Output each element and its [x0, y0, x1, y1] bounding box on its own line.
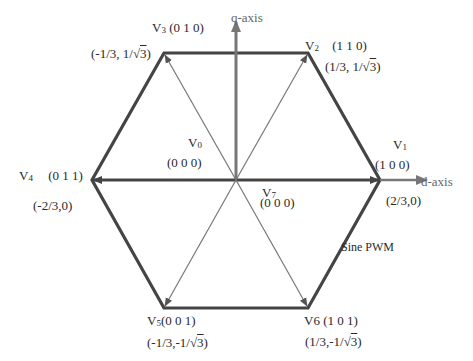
v1-label: V1	[393, 138, 407, 152]
vector-v2	[236, 55, 307, 180]
v1-state: (1 0 0)	[375, 158, 410, 171]
sine-pwm-annotation: Sine PWM	[341, 241, 394, 253]
v3-coordinate: (-1/3, 1/√3)	[91, 47, 151, 60]
v1-coordinate: (2/3,0)	[386, 194, 421, 207]
v2-label: V2 (1 1 0)	[305, 39, 367, 53]
q-axis-label: q-axis	[231, 11, 263, 24]
v6-coordinate: (1/3,-1/√3)	[305, 335, 362, 348]
v0-label: V0	[188, 136, 202, 150]
v3-label: V3 (0 1 0)	[152, 21, 204, 35]
v5-coordinate: (-1/3,-1/√3)	[147, 336, 208, 349]
v6-label: V6 (1 0 1)	[304, 314, 358, 327]
vector-v5	[165, 180, 236, 306]
v7-state: (0 0 0)	[260, 196, 295, 209]
v0-state: (0 0 0)	[167, 156, 202, 169]
v5-label: V5(0 0 1)	[147, 314, 196, 328]
d-axis-label: d-axis	[421, 175, 453, 188]
v2-coordinate: (1/3, 1/√3)	[325, 60, 381, 73]
v4-label: V4 (0 1 1)	[19, 169, 83, 183]
v4-coordinate: (-2/3,0)	[33, 199, 72, 212]
